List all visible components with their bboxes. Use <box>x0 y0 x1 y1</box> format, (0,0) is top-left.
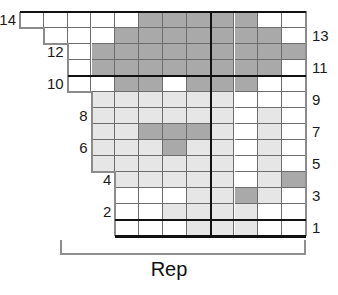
chart-cell-r12-c10 <box>235 44 259 60</box>
chart-cell-r12-c9 <box>211 44 235 60</box>
chart-cell-r8-c6 <box>139 108 163 124</box>
chart-cell-r6-c5 <box>115 140 139 156</box>
chart-cell-r10-c7 <box>163 76 187 92</box>
chart-cell-r9-c6 <box>139 92 163 108</box>
chart-cell-r14-c4 <box>92 12 116 28</box>
chart-cell-r10-c3 <box>68 76 92 92</box>
chart-cell-r9-c9 <box>211 92 235 108</box>
chart-cell-r8-c4 <box>92 108 116 124</box>
chart-cell-r9-c4 <box>92 92 116 108</box>
chart-cell-r8-c12 <box>282 108 306 124</box>
chart-cell-r7-c8 <box>187 124 211 140</box>
row-number-left-2: 2 <box>103 204 111 219</box>
chart-cell-r10-c8 <box>187 76 211 92</box>
chart-cell-r1-c11 <box>258 220 282 236</box>
chart-cell-r12-c12 <box>282 44 306 60</box>
chart-cell-r9-c5 <box>115 92 139 108</box>
chart-cell-r13-c7 <box>163 28 187 44</box>
chart-left-step <box>91 171 117 173</box>
chart-cell-r12-c7 <box>163 44 187 60</box>
chart-cell-r14-c9 <box>211 12 235 28</box>
chart-cell-r7-c7 <box>163 124 187 140</box>
chart-cell-r12-c4 <box>92 44 116 60</box>
chart-cell-r11-c11 <box>258 60 282 76</box>
chart-cell-r5-c7 <box>163 156 187 172</box>
chart-cell-r7-c6 <box>139 124 163 140</box>
chart-cell-r13-c6 <box>139 28 163 44</box>
chart-cell-r7-c4 <box>92 124 116 140</box>
chart-cell-r6-c6 <box>139 140 163 156</box>
chart-cell-r1-c5 <box>115 220 139 236</box>
chart-cell-r13-c8 <box>187 28 211 44</box>
chart-cell-r7-c11 <box>258 124 282 140</box>
chart-cell-r1-c12 <box>282 220 306 236</box>
repeat-line <box>210 12 212 236</box>
chart-cell-r4-c5 <box>115 172 139 188</box>
chart-cell-r11-c7 <box>163 60 187 76</box>
chart-cell-r2-c11 <box>258 204 282 220</box>
chart-cell-r8-c10 <box>235 108 259 124</box>
chart-cell-r4-c9 <box>211 172 235 188</box>
chart-cell-r5-c8 <box>187 156 211 172</box>
chart-cell-r5-c12 <box>282 156 306 172</box>
chart-cell-r3-c8 <box>187 188 211 204</box>
chart-cell-r4-c7 <box>163 172 187 188</box>
chart-cell-r6-c9 <box>211 140 235 156</box>
chart-cell-r3-c7 <box>163 188 187 204</box>
chart-cell-r5-c4 <box>92 156 116 172</box>
chart-cell-r9-c8 <box>187 92 211 108</box>
chart-cell-r3-c6 <box>139 188 163 204</box>
heavy-rule-row-14 <box>20 11 306 13</box>
chart-cell-r10-c5 <box>115 76 139 92</box>
chart-cell-r1-c10 <box>235 220 259 236</box>
chart-cell-r14-c6 <box>139 12 163 28</box>
chart-cell-r13-c9 <box>211 28 235 44</box>
chart-cell-r11-c8 <box>187 60 211 76</box>
chart-cell-r13-c10 <box>235 28 259 44</box>
heavy-rule-row-10 <box>68 75 306 77</box>
chart-left-step <box>67 91 93 93</box>
chart-cell-r10-c6 <box>139 76 163 92</box>
chart-cell-r2-c9 <box>211 204 235 220</box>
chart-cell-r7-c10 <box>235 124 259 140</box>
chart-cell-r6-c10 <box>235 140 259 156</box>
chart-cell-r9-c10 <box>235 92 259 108</box>
chart-cell-r8-c11 <box>258 108 282 124</box>
chart-cell-r14-c2 <box>44 12 68 28</box>
chart-cell-r10-c12 <box>282 76 306 92</box>
chart-cell-r13-c5 <box>115 28 139 44</box>
chart-cell-r3-c9 <box>211 188 235 204</box>
chart-cell-r14-c3 <box>68 12 92 28</box>
chart-cell-r10-c10 <box>235 76 259 92</box>
row-number-left-6: 6 <box>79 140 87 155</box>
chart-cell-r3-c5 <box>115 188 139 204</box>
chart-cell-r2-c6 <box>139 204 163 220</box>
chart-left-edge <box>19 12 21 28</box>
chart-cell-r11-c5 <box>115 60 139 76</box>
chart-cell-r3-c12 <box>282 188 306 204</box>
chart-cell-r13-c2 <box>44 28 68 44</box>
knitting-chart: 1412108642131197531 Rep <box>0 0 338 295</box>
chart-cell-r14-c10 <box>235 12 259 28</box>
row-number-right-5: 5 <box>312 156 320 171</box>
row-number-left-14: 14 <box>0 12 16 27</box>
chart-cell-r14-c8 <box>187 12 211 28</box>
chart-cell-r11-c3 <box>68 60 92 76</box>
chart-cell-r1-c7 <box>163 220 187 236</box>
chart-left-edge <box>91 92 93 172</box>
chart-cell-r8-c8 <box>187 108 211 124</box>
chart-cell-r8-c7 <box>163 108 187 124</box>
chart-cell-r1-c9 <box>211 220 235 236</box>
chart-cell-r11-c10 <box>235 60 259 76</box>
chart-right-edge <box>305 12 307 236</box>
chart-cell-r11-c9 <box>211 60 235 76</box>
chart-cell-r5-c9 <box>211 156 235 172</box>
row-number-left-8: 8 <box>79 108 87 123</box>
chart-cell-r8-c9 <box>211 108 235 124</box>
chart-cell-r10-c4 <box>92 76 116 92</box>
chart-cell-r5-c5 <box>115 156 139 172</box>
rep-axis-label: Rep <box>0 258 338 281</box>
chart-cell-r14-c11 <box>258 12 282 28</box>
chart-cell-r12-c6 <box>139 44 163 60</box>
row-number-right-1: 1 <box>312 220 320 235</box>
